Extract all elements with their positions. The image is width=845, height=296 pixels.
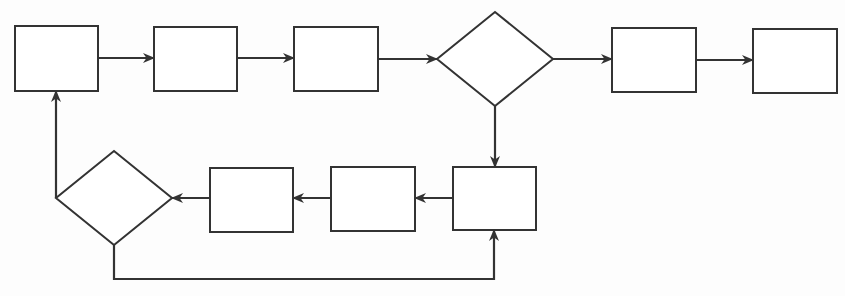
rectangle-shape [294, 27, 378, 91]
process-node-n2 [154, 27, 237, 91]
flowchart-canvas [0, 0, 845, 296]
rectangle-shape [210, 168, 293, 232]
process-node-n6 [453, 167, 536, 230]
rectangle-shape [453, 167, 536, 230]
process-node-n7 [331, 167, 415, 231]
process-node-n1 [15, 26, 98, 91]
process-node-n3 [294, 27, 378, 91]
process-node-n4 [612, 28, 696, 92]
diamond-shape [437, 12, 553, 106]
rectangle-shape [15, 26, 98, 91]
rectangle-shape [331, 167, 415, 231]
process-node-n8 [210, 168, 293, 232]
process-node-n5 [753, 29, 837, 93]
rectangle-shape [154, 27, 237, 91]
diamond-shape [56, 151, 172, 245]
rectangle-shape [612, 28, 696, 92]
nodes [15, 12, 837, 245]
decision-node-d2 [56, 151, 172, 245]
decision-node-d1 [437, 12, 553, 106]
arrow-d2-to-n6 [114, 230, 494, 279]
rectangle-shape [753, 29, 837, 93]
